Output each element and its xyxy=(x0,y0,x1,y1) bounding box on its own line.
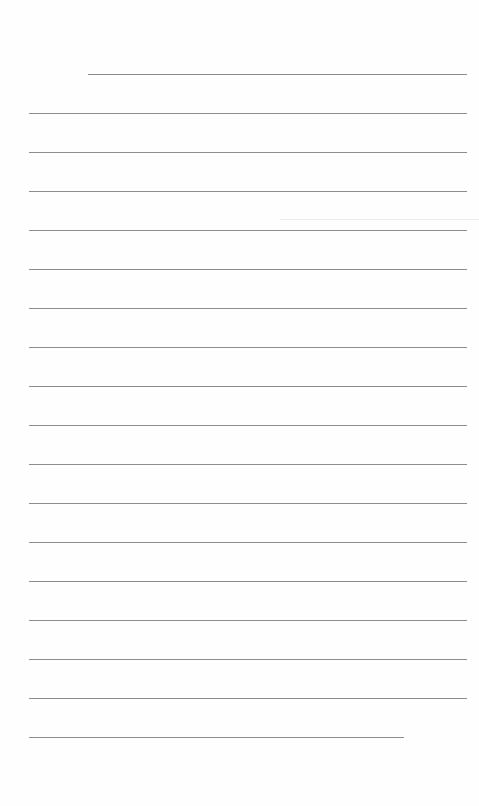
ruled-line xyxy=(29,737,404,738)
ruled-line xyxy=(29,464,467,465)
ruled-line xyxy=(29,113,467,114)
ruled-line xyxy=(29,503,467,504)
ruled-line xyxy=(29,659,467,660)
ruled-line xyxy=(29,542,467,543)
ruled-line xyxy=(29,386,467,387)
ruled-line xyxy=(29,581,467,582)
ruled-line xyxy=(29,425,467,426)
ruled-line xyxy=(29,269,467,270)
ruled-line xyxy=(29,152,467,153)
ruled-line xyxy=(88,74,467,75)
ruled-line xyxy=(29,620,467,621)
ruled-line xyxy=(29,347,467,348)
lined-paper-page xyxy=(0,0,479,806)
ruled-line xyxy=(29,698,467,699)
ruled-line xyxy=(29,308,467,309)
ruled-line xyxy=(29,230,467,231)
ruled-line xyxy=(29,191,467,192)
faint-artifact-line xyxy=(280,219,479,220)
